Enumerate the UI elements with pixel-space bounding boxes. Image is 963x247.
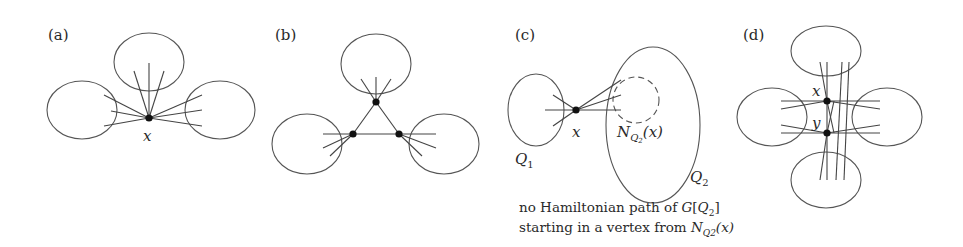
q2-label: Q2 xyxy=(690,168,709,188)
panel-d: (d) x y xyxy=(737,26,922,208)
q1-label: Q1 xyxy=(515,150,534,170)
panel-b-label: (b) xyxy=(275,26,296,44)
vertex-x xyxy=(145,114,152,121)
panel-c-label: (c) xyxy=(515,26,535,44)
clique-right xyxy=(409,114,479,174)
caption-math-q: Q xyxy=(698,199,709,215)
edges-d xyxy=(781,62,880,180)
clique-left xyxy=(737,88,807,146)
clique-bottom xyxy=(791,152,861,208)
caption-text: no Hamiltonian path of xyxy=(519,199,682,215)
caption-bracket: ] xyxy=(714,199,719,215)
neighborhood-label: NQ2(x) xyxy=(616,123,663,145)
caption-line-1: no Hamiltonian path of G[Q2] xyxy=(519,199,720,218)
edges-a xyxy=(104,63,202,126)
clique-left xyxy=(47,81,117,139)
clique-top xyxy=(791,26,861,76)
panel-d-label: (d) xyxy=(743,26,764,44)
vertex-x xyxy=(823,97,830,104)
panel-a: (a) x xyxy=(47,26,255,145)
caption-line-2: starting in a vertex from NQ2(x) xyxy=(519,219,734,238)
clique-right xyxy=(185,81,255,139)
vertex-x xyxy=(572,106,579,113)
vertex-right xyxy=(395,130,402,137)
vertex-x-label: x xyxy=(143,127,152,145)
clique-right xyxy=(852,88,922,146)
figure-canvas: (a) x (b) xyxy=(0,0,963,247)
panel-c: (c) x NQ2(x) Q1 Q2 xyxy=(508,26,709,203)
caption-math-g: G xyxy=(682,199,693,215)
vertex-left xyxy=(349,130,356,137)
caption-sub: Q2 xyxy=(703,228,716,238)
caption-text: starting in a vertex from xyxy=(519,219,691,235)
neighborhood-region xyxy=(613,77,659,123)
vertex-x-label: x xyxy=(572,123,581,141)
edges-c xyxy=(545,80,621,126)
caption-math-arg: (x) xyxy=(716,219,734,235)
vertex-top xyxy=(372,98,379,105)
vertex-x-label: x xyxy=(812,82,821,100)
vertex-y-label: y xyxy=(811,114,821,132)
vertex-y xyxy=(823,129,830,136)
panel-a-label: (a) xyxy=(48,26,69,44)
caption-math-n: N xyxy=(691,219,703,235)
panel-b: (b) xyxy=(272,26,479,174)
edges-b xyxy=(323,77,436,156)
